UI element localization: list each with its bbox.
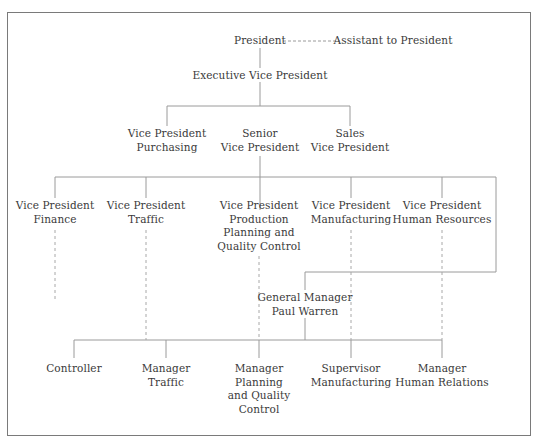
node-vp-manufacturing: Vice President Manufacturing: [311, 199, 392, 226]
node-executive-vice-president: Executive Vice President: [192, 69, 327, 83]
node-manager-planning-quality-control: Manager Planning and Quality Control: [228, 362, 291, 416]
node-president: President: [234, 34, 286, 48]
node-vp-traffic: Vice President Traffic: [107, 199, 186, 226]
node-vp-human-resources: Vice President Human Resources: [393, 199, 492, 226]
node-manager-traffic: Manager Traffic: [142, 362, 191, 389]
node-manager-human-relations: Manager Human Relations: [395, 362, 489, 389]
node-vp-purchasing: Vice President Purchasing: [128, 127, 207, 154]
node-general-manager: General Manager Paul Warren: [257, 291, 352, 318]
node-vp-finance: Vice President Finance: [16, 199, 95, 226]
node-supervisor-manufacturing: Supervisor Manufacturing: [311, 362, 392, 389]
node-assistant-to-president: Assistant to President: [334, 34, 453, 48]
org-chart: President Assistant to President Executi…: [0, 0, 536, 441]
node-senior-vice-president: Senior Vice President: [221, 127, 300, 154]
node-controller: Controller: [46, 362, 102, 376]
node-vp-production-planning-quality-control: Vice President Production Planning and Q…: [217, 199, 300, 253]
node-sales-vice-president: Sales Vice President: [311, 127, 390, 154]
